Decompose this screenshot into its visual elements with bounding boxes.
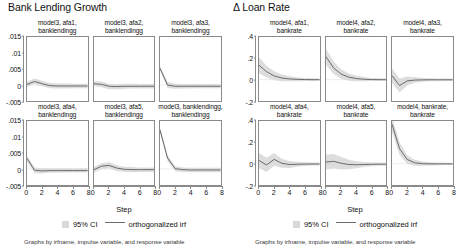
x-tick-mark (124, 186, 125, 189)
x-tick-label: 0 (323, 189, 327, 196)
irf-plot (93, 36, 156, 102)
x-tick-label: 4 (122, 189, 126, 196)
x-tick-mark (159, 186, 160, 189)
panel-cell (24, 36, 91, 102)
plot-area (323, 36, 390, 102)
panel-cell: model3, afa2, banklendingg (91, 18, 158, 36)
x-tick-label: 2 (405, 189, 409, 196)
panel-title: model4, afa2, bankrate (323, 18, 390, 36)
x-axis-label: Step (255, 205, 455, 214)
panel-title: model3, afa5, banklendingg (91, 102, 158, 120)
x-axis-cell: 02468 (157, 186, 224, 197)
x-tick-mark (274, 186, 275, 189)
panel-title: model3, afa3, banklendingg (157, 18, 224, 36)
y-tick-label: .005 (8, 150, 21, 157)
x-axis: 024680246802468 (256, 186, 456, 197)
y-tick-label: 0 (249, 77, 253, 84)
panel-title: model4, bankrate, bankrate (389, 102, 456, 120)
figure-footer: Step 95% CI orthogonalized irf Graphs by… (24, 200, 224, 245)
panel-cell (24, 120, 91, 186)
plot-area (389, 120, 456, 186)
figure-title: Bank Lending Growth (8, 1, 107, 13)
plot-area (256, 120, 323, 186)
figure-delta-loan-rate: Δ Loan Rate model4, afa1, bankratemodel4… (232, 0, 463, 243)
ci-band-swatch-icon (62, 221, 69, 228)
plot-area (389, 36, 456, 102)
x-axis-label: Step (24, 205, 224, 214)
x-tick-mark (108, 186, 109, 189)
panel-cell: model4, afa5, bankrate (323, 102, 390, 120)
legend: 95% CI orthogonalized irf (24, 220, 224, 229)
legend-label-irf: orthogonalized irf (129, 220, 187, 229)
panel-cell: model4, afa1, bankrate (256, 18, 323, 36)
x-tick-mark (93, 186, 94, 189)
x-tick-mark (325, 186, 326, 189)
irf-plot (325, 36, 388, 102)
panel-title-row: model4, afa1, bankratemodel4, afa2, bank… (256, 18, 456, 36)
plot-area (256, 36, 323, 102)
panel-cell (323, 36, 390, 102)
panel-cell: model3, afa5, banklendingg (91, 102, 158, 120)
panel-title: model4, afa5, bankrate (323, 102, 390, 120)
panel-title: model4, afa3, bankrate (389, 18, 456, 36)
x-axis-cell: 02468 (256, 186, 323, 197)
panel-cell: model4, afa3, bankrate (389, 18, 456, 36)
y-tick-label: .01 (12, 133, 21, 140)
x-tick-label: 2 (272, 189, 276, 196)
x-axis-cell: 02468 (24, 186, 91, 197)
x-tick-mark (340, 186, 341, 189)
panel-cell (157, 36, 224, 102)
x-tick-label: 8 (220, 189, 224, 196)
x-tick-mark (26, 186, 27, 189)
y-tick-label: -.2 (245, 99, 253, 106)
panel-cell (256, 36, 323, 102)
irf-plot (325, 120, 388, 186)
panel-cell: model4, afa2, bankrate (323, 18, 390, 36)
x-tick-label: 0 (91, 189, 95, 196)
x-tick-label: 0 (24, 189, 28, 196)
panel-cell: model3, afa1, banklendingg (24, 18, 91, 36)
panel-cell (389, 36, 456, 102)
figure-caption: Graphs by irfname, impulse variable, and… (255, 238, 463, 245)
panel-title: model4, afa1, bankrate (256, 18, 323, 36)
x-tick-mark (391, 186, 392, 189)
x-tick-mark (356, 186, 357, 189)
irf-plot (26, 120, 89, 186)
y-tick-label: .015 (8, 117, 21, 124)
x-tick-label: 2 (338, 189, 342, 196)
y-tick-label: -.005 (6, 99, 21, 106)
x-tick-mark (57, 186, 58, 189)
x-tick-mark (387, 186, 388, 189)
legend-item-irf: orthogonalized irf (336, 220, 418, 229)
x-axis: 024680246802468 (24, 186, 224, 197)
irf-line-swatch-icon (336, 222, 356, 223)
plot-area (91, 120, 158, 186)
x-tick-label: 0 (157, 189, 161, 196)
panel-title: model3, banklendingg, banklendingg (157, 102, 224, 120)
plot-area (157, 36, 224, 102)
panel-cell: model3, banklendingg, banklendingg (157, 102, 224, 120)
x-axis-cell: 02468 (91, 186, 158, 197)
irf-plot (26, 36, 89, 102)
panel-plot-row: .015.01.0050-.005 (24, 36, 224, 102)
y-axis: .015.01.0050-.005 (0, 120, 24, 186)
x-tick-label: 8 (452, 189, 456, 196)
y-tick-label: .4 (248, 117, 253, 124)
panel-cell: model3, afa4, banklendingg (24, 102, 91, 120)
y-tick-label: .005 (8, 66, 21, 73)
ci-band-swatch-icon (293, 221, 300, 228)
x-tick-mark (206, 186, 207, 189)
panel-cell (389, 120, 456, 186)
x-tick-label: 6 (303, 189, 307, 196)
panel-title-row: model4, afa4, bankratemodel4, afa5, bank… (256, 102, 456, 120)
panel-cell (91, 36, 158, 102)
panel-cell (256, 120, 323, 186)
x-tick-label: 4 (354, 189, 358, 196)
y-tick-label: 0 (17, 166, 21, 173)
x-tick-label: 4 (189, 189, 193, 196)
panel-cell: model4, afa4, bankrate (256, 102, 323, 120)
y-tick-label: 0 (17, 82, 21, 89)
legend-label-irf: orthogonalized irf (360, 220, 418, 229)
y-tick-label: .01 (12, 49, 21, 56)
plot-area (24, 36, 91, 102)
